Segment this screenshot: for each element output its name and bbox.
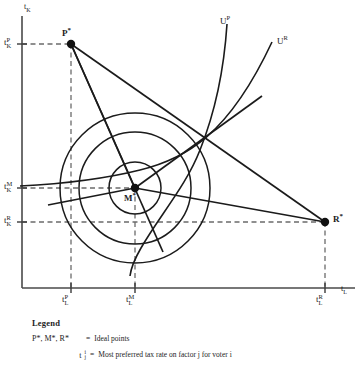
legend-text-tax-rate: Most preferred tax rate on factor j for … — [98, 350, 231, 359]
y-tick-label-tkr: tRK — [4, 215, 11, 227]
legend-row-tax-rate: tij = Most preferred tax rate on factor … — [32, 349, 352, 360]
figure-container: tK tL tPK tMK tRK tPL tML tRL P* M* R* U… — [0, 0, 361, 374]
point-label-r-star: R* — [333, 212, 343, 224]
point-label-p-star: P* — [62, 26, 71, 38]
legend-equals-tax-rate: = — [90, 350, 94, 359]
guide-lines — [22, 44, 325, 288]
point-p-star[interactable] — [67, 40, 75, 48]
ray-m-outward-upper-right — [135, 96, 262, 188]
curve-label-up: UP — [220, 14, 230, 26]
y-axis-label: tK — [24, 2, 31, 13]
x-tick-label-tlm: tML — [126, 294, 134, 306]
legend-symbol-tax-rate: tij — [32, 349, 90, 360]
legend: Legend P*, M*, R* = Ideal points tij = M… — [32, 318, 352, 360]
x-tick-label-tlp: tPL — [62, 294, 69, 306]
point-label-m-star: M* — [124, 191, 136, 203]
curve-label-ur: UR — [277, 34, 288, 46]
contract-line-p-to-r — [71, 44, 325, 222]
contract-line-m-to-r — [135, 188, 325, 222]
x-tick-label-tlr: tRL — [316, 294, 323, 306]
legend-text-ideal-points: Ideal points — [94, 334, 129, 343]
x-axis-label: tL — [341, 284, 347, 295]
axis-group — [22, 16, 355, 288]
legend-symbol-ideal-points: P*, M*, R* — [32, 334, 86, 343]
legend-title: Legend — [32, 318, 352, 328]
legend-row-ideal-points: P*, M*, R* = Ideal points — [32, 334, 352, 343]
legend-equals-ideal-points: = — [86, 334, 90, 343]
y-tick-label-tkp: tPK — [4, 37, 11, 49]
y-tick-label-tkm: tMK — [4, 181, 12, 193]
point-r-star[interactable] — [321, 218, 329, 226]
indifference-curve-up — [130, 24, 227, 276]
